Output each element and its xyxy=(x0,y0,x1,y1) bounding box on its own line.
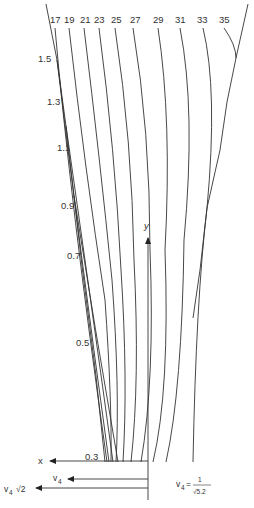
curve-31 xyxy=(166,28,189,462)
svg-text:=: = xyxy=(186,479,191,489)
curve-inner-a xyxy=(57,60,109,462)
svg-text:31: 31 xyxy=(175,14,186,25)
left-labels: 1.5 1.3 1.1 0.9 0.7 0.5 0.3 xyxy=(38,53,98,462)
x-axis-label: x xyxy=(38,455,43,466)
svg-text:23: 23 xyxy=(94,14,105,25)
curve-35 xyxy=(224,28,236,58)
top-labels: 17 19 21 23 25 27 29 31 33 35 xyxy=(50,14,230,25)
svg-text:1.1: 1.1 xyxy=(57,142,70,153)
svg-text:25: 25 xyxy=(111,14,122,25)
svg-text:4: 4 xyxy=(58,478,62,485)
curve-17 xyxy=(55,28,107,462)
svg-text:17: 17 xyxy=(50,14,61,25)
curve-19 xyxy=(69,28,111,462)
svg-text:1.5: 1.5 xyxy=(38,53,51,64)
svg-text:19: 19 xyxy=(64,14,75,25)
curve-21 xyxy=(84,28,117,462)
svg-text:35: 35 xyxy=(219,14,230,25)
svg-text:21: 21 xyxy=(80,14,91,25)
svg-text:0.9: 0.9 xyxy=(61,200,74,211)
y-axis-label: y xyxy=(143,220,150,231)
svg-text:√5.2: √5.2 xyxy=(193,488,206,495)
svg-text:4: 4 xyxy=(181,484,185,491)
curve-25 xyxy=(115,28,136,462)
svg-text:1: 1 xyxy=(198,476,202,483)
v4-label: v 4 xyxy=(53,473,62,485)
svg-text:√2: √2 xyxy=(16,484,26,494)
svg-text:4: 4 xyxy=(9,489,13,496)
v4-sqrt2-label: v 4 √2 xyxy=(4,484,26,496)
curve-23 xyxy=(99,28,125,462)
svg-text:29: 29 xyxy=(153,14,164,25)
curve-33 xyxy=(193,28,212,462)
svg-text:0.3: 0.3 xyxy=(85,451,98,462)
characteristics-diagram: 17 19 21 23 25 27 29 31 33 35 1.5 1.3 1.… xyxy=(0,0,254,508)
svg-text:0.7: 0.7 xyxy=(67,250,80,261)
curve-inner-c xyxy=(74,196,118,462)
svg-text:33: 33 xyxy=(197,14,208,25)
svg-text:27: 27 xyxy=(130,14,141,25)
curve-29 xyxy=(153,28,167,462)
svg-text:1.3: 1.3 xyxy=(47,96,60,107)
v4-formula: v 4 = 1 √5.2 xyxy=(176,476,211,495)
svg-text:0.5: 0.5 xyxy=(76,337,89,348)
left-boundary-line xyxy=(46,4,105,462)
